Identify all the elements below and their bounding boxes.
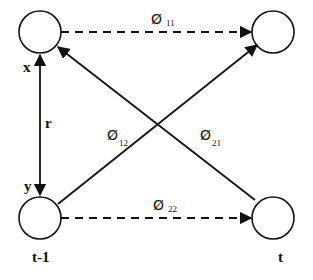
label-y: y xyxy=(24,178,32,194)
label-phi12: Ø12 xyxy=(107,127,128,148)
node-x-t xyxy=(252,11,294,53)
label-phi21: Ø21 xyxy=(200,127,221,148)
cross-lagged-diagram: x r y t-1 t Ø11 Ø22 Ø12 Ø21 xyxy=(0,0,313,280)
label-phi11: Ø11 xyxy=(151,11,175,28)
node-y-t-1 xyxy=(19,197,61,239)
label-t-minus-1: t-1 xyxy=(32,249,50,265)
label-t: t xyxy=(278,249,283,265)
label-x: x xyxy=(23,59,31,75)
node-x-t-1 xyxy=(19,11,61,53)
node-y-t xyxy=(252,197,294,239)
label-phi22: Ø22 xyxy=(153,197,177,214)
label-r: r xyxy=(45,115,52,131)
